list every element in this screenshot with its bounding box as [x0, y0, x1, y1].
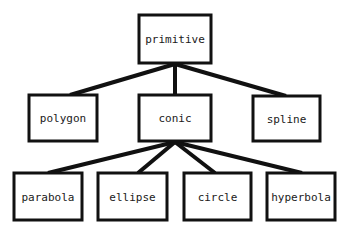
nodes: primitivepolygonconicsplineparabolaellip… [14, 15, 335, 220]
node-conic: conic [139, 95, 211, 141]
node-circle: circle [184, 173, 251, 220]
node-label: conic [158, 112, 191, 125]
node-parabola: parabola [14, 173, 82, 220]
node-ellipse: ellipse [98, 173, 167, 220]
edge-primitive-polygon [70, 64, 175, 95]
primitive-hierarchy-diagram: primitivepolygonconicsplineparabolaellip… [0, 0, 350, 237]
node-label: spline [267, 113, 307, 126]
node-hyperbola: hyperbola [267, 173, 335, 220]
node-polygon: polygon [29, 95, 97, 141]
edge-primitive-spline [175, 64, 286, 96]
node-label: polygon [40, 112, 86, 125]
node-label: parabola [22, 191, 75, 204]
node-primitive: primitive [139, 15, 211, 63]
node-label: primitive [145, 33, 205, 46]
node-label: ellipse [109, 191, 155, 204]
node-spline: spline [253, 96, 320, 141]
node-label: hyperbola [271, 191, 331, 204]
node-label: circle [198, 191, 238, 204]
